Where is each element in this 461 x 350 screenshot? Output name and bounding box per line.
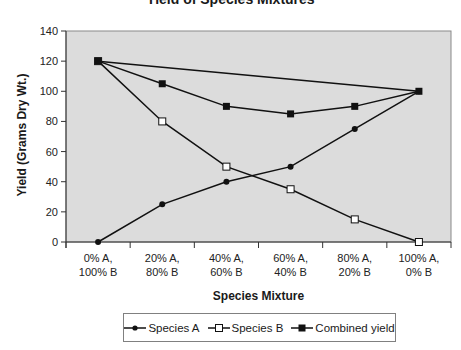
y-tick-label: 80 bbox=[46, 115, 58, 127]
x-tick-label: 80% A, bbox=[337, 252, 372, 264]
data-point bbox=[223, 103, 230, 110]
data-point bbox=[415, 88, 422, 95]
x-tick-label: 40% A, bbox=[209, 252, 244, 264]
legend-item-species-b: Species B bbox=[208, 322, 284, 334]
x-tick-label: 0% A, bbox=[84, 252, 113, 264]
x-tick-label: 0% B bbox=[406, 266, 432, 278]
filled-square-icon bbox=[291, 323, 313, 333]
data-point bbox=[415, 239, 422, 246]
data-point bbox=[351, 103, 358, 110]
x-tick-label: 100% B bbox=[79, 266, 118, 278]
data-point bbox=[287, 110, 294, 117]
data-point bbox=[351, 216, 358, 223]
x-tick-label: 100% A, bbox=[398, 252, 439, 264]
data-point bbox=[159, 80, 166, 87]
legend-item-combined-yield: Combined yield bbox=[291, 322, 394, 334]
x-tick-label: 40% B bbox=[274, 266, 306, 278]
chart-legend: Species A Species B Combined yield bbox=[123, 313, 396, 342]
data-point bbox=[95, 239, 101, 245]
y-tick-label: 40 bbox=[46, 176, 58, 188]
legend-label: Species B bbox=[232, 322, 284, 334]
y-tick-label: 120 bbox=[40, 55, 58, 67]
legend-item-species-a: Species A bbox=[124, 322, 199, 334]
data-point bbox=[287, 186, 294, 193]
data-point bbox=[95, 58, 102, 65]
data-point bbox=[223, 179, 229, 185]
x-tick-label: 60% A, bbox=[273, 252, 308, 264]
y-tick-label: 0 bbox=[52, 236, 58, 248]
x-axis-label: Species Mixture bbox=[66, 289, 451, 303]
x-tick-label: 60% B bbox=[210, 266, 242, 278]
data-point bbox=[159, 201, 165, 207]
circle-icon bbox=[124, 323, 146, 333]
data-point bbox=[159, 118, 166, 125]
data-point bbox=[223, 163, 230, 170]
y-tick-label: 140 bbox=[40, 25, 58, 37]
legend-label: Species A bbox=[148, 322, 199, 334]
y-tick-label: 60 bbox=[46, 146, 58, 158]
y-axis-label: Yield (Grams Dry Wt.) bbox=[15, 55, 29, 215]
data-point bbox=[288, 164, 294, 170]
x-tick-label: 20% A, bbox=[145, 252, 180, 264]
plot-area bbox=[66, 31, 451, 242]
x-tick-label: 20% B bbox=[339, 266, 371, 278]
legend-label: Combined yield bbox=[315, 322, 394, 334]
y-tick-label: 20 bbox=[46, 206, 58, 218]
data-point bbox=[352, 126, 358, 132]
x-tick-label: 80% B bbox=[146, 266, 178, 278]
y-tick-label: 100 bbox=[40, 85, 58, 97]
open-square-icon bbox=[208, 323, 230, 333]
